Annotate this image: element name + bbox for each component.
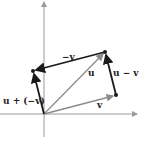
- label-neg-v: −v: [62, 52, 76, 62]
- label-u-minus-v: u − v: [113, 68, 139, 78]
- label-v: v: [96, 100, 103, 110]
- vector-u-plus-neg-v: [34, 74, 44, 114]
- vector-diagram: −v u u − v v u + (−v): [0, 0, 145, 146]
- vector-v: [44, 96, 113, 114]
- vector-u: [44, 54, 103, 114]
- point-v-tip: [114, 93, 118, 97]
- label-u: u: [88, 68, 95, 78]
- label-u-plus-neg-v: u + (−v): [3, 96, 45, 106]
- point-u-tip: [103, 50, 107, 54]
- point-neg-v-tip: [31, 69, 35, 73]
